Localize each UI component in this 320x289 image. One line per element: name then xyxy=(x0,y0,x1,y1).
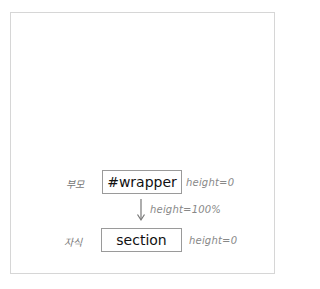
arrow-down-icon xyxy=(136,198,146,222)
parent-box-wrapper: #wrapper xyxy=(102,170,182,194)
child-box-section: section xyxy=(101,228,182,252)
child-height-note: height=0 xyxy=(189,235,237,246)
parent-box-name: #wrapper xyxy=(107,174,177,190)
relation-height-note: height=100% xyxy=(150,204,221,215)
parent-height-note: height=0 xyxy=(186,177,234,188)
child-role-label: 자식 xyxy=(64,234,82,249)
child-box-name: section xyxy=(116,232,166,248)
parent-role-label: 부모 xyxy=(66,176,84,191)
